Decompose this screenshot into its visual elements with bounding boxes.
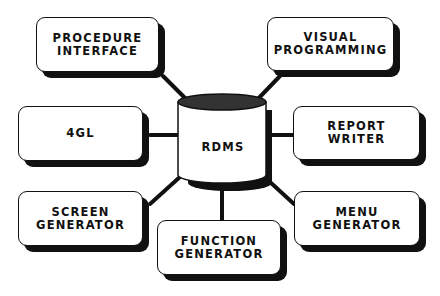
node-report-writer: REPORT WRITER [293, 106, 420, 160]
node-label: PROCEDURE INTERFACE [53, 32, 143, 58]
node-screen-generator: SCREEN GENERATOR [18, 191, 143, 246]
node-label: FUNCTION GENERATOR [175, 235, 264, 261]
node-label: 4GL [66, 127, 94, 140]
node-label: VISUAL PROGRAMMING [274, 31, 388, 57]
node-label: SCREEN GENERATOR [36, 206, 125, 232]
node-4gl: 4GL [18, 106, 143, 161]
rdms-label: RDMS [182, 140, 264, 154]
node-procedure-interface: PROCEDURE INTERFACE [36, 17, 159, 72]
node-visual-programming: VISUAL PROGRAMMING [267, 17, 394, 71]
node-menu-generator: MENU GENERATOR [294, 191, 420, 246]
node-label: MENU GENERATOR [313, 206, 402, 232]
node-label: REPORT WRITER [327, 120, 385, 146]
node-function-generator: FUNCTION GENERATOR [157, 220, 281, 275]
